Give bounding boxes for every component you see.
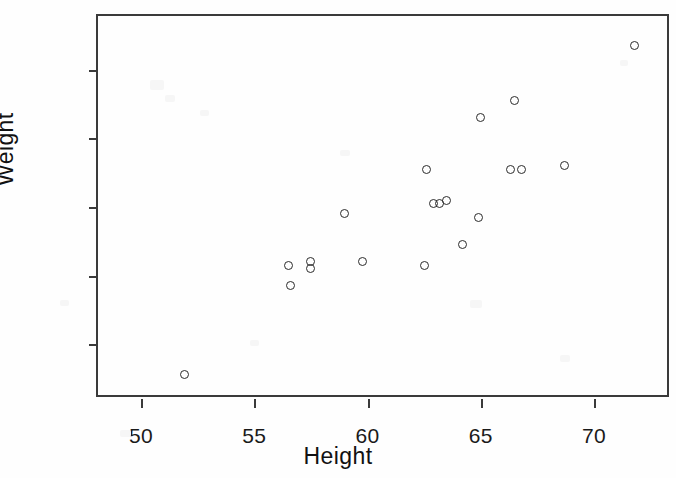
- x-tick-mark: [141, 399, 143, 408]
- y-tick-mark: [89, 138, 98, 140]
- plot-area-frame: 6080100120140 5055606570: [96, 14, 669, 397]
- x-tick-mark: [481, 399, 483, 408]
- scatter-plot-figure: Weight 6080100120140 5055606570 Height: [0, 0, 676, 478]
- data-point: [420, 261, 429, 270]
- data-point: [306, 264, 315, 273]
- data-point: [630, 41, 639, 50]
- scan-artifact: [200, 110, 209, 116]
- scan-artifact: [560, 355, 570, 362]
- y-tick-mark: [89, 344, 98, 346]
- data-point: [286, 281, 295, 290]
- scan-artifact: [340, 150, 350, 156]
- x-axis-title: Height: [0, 443, 676, 470]
- x-tick-mark: [368, 399, 370, 408]
- x-tick-mark: [254, 399, 256, 408]
- scan-artifact: [60, 300, 69, 306]
- data-point: [358, 257, 367, 266]
- y-axis-title: Weight: [0, 112, 19, 186]
- data-points-layer: [98, 16, 667, 395]
- data-point: [517, 165, 526, 174]
- data-point: [284, 261, 293, 270]
- y-tick-mark: [89, 207, 98, 209]
- data-point: [510, 96, 519, 105]
- scan-artifact: [165, 95, 175, 102]
- data-point: [442, 196, 451, 205]
- scan-artifact: [150, 80, 164, 90]
- data-point: [506, 165, 515, 174]
- data-point: [458, 240, 467, 249]
- scan-artifact: [620, 60, 628, 66]
- scan-artifact: [250, 340, 259, 346]
- data-point: [474, 213, 483, 222]
- y-tick-mark: [89, 276, 98, 278]
- data-point: [560, 161, 569, 170]
- data-point: [340, 209, 349, 218]
- data-point: [422, 165, 431, 174]
- data-point: [180, 370, 189, 379]
- y-tick-mark: [89, 70, 98, 72]
- scan-artifact: [120, 430, 131, 437]
- data-point: [476, 113, 485, 122]
- scan-artifact: [470, 300, 482, 308]
- x-tick-mark: [594, 399, 596, 408]
